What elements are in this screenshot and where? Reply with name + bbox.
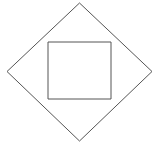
geometric-figure-container [0,0,161,145]
figure-background [0,0,161,145]
figure-svg-canvas [0,0,161,145]
